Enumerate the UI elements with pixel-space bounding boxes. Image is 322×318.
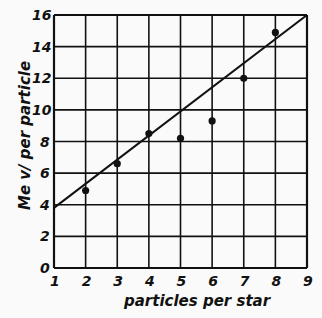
plot-area: 1234567890246810121416particles per star… <box>0 0 322 318</box>
data-point <box>209 117 216 124</box>
x-tick-label: 8 <box>271 273 281 289</box>
x-tick-label: 7 <box>240 273 250 289</box>
y-tick-label: 14 <box>32 39 51 55</box>
data-point <box>240 75 247 82</box>
y-tick-label: 2 <box>40 228 50 244</box>
data-point <box>145 130 152 137</box>
x-tick-label: 3 <box>113 273 123 289</box>
data-point <box>114 160 121 167</box>
x-tick-label: 6 <box>208 273 218 289</box>
x-tick-label: 4 <box>144 273 155 289</box>
x-tick-label: 5 <box>177 273 187 289</box>
y-tick-label: 6 <box>40 165 50 181</box>
y-tick-label: 8 <box>40 134 50 150</box>
data-point <box>177 135 184 142</box>
data-point <box>272 29 279 36</box>
y-tick-label: 16 <box>32 7 52 23</box>
x-axis-title: particles per star <box>123 292 272 310</box>
y-tick-label: 12 <box>32 70 51 86</box>
data-point <box>82 187 89 194</box>
x-tick-label: 2 <box>82 273 92 289</box>
y-tick-label: 0 <box>40 260 50 276</box>
y-tick-label: 10 <box>32 102 52 118</box>
y-axis-title: Me v/ per particle <box>16 61 34 210</box>
y-tick-label: 4 <box>39 197 50 213</box>
chart: 1234567890246810121416particles per star… <box>0 0 322 318</box>
x-tick-label: 9 <box>303 273 313 289</box>
x-tick-label: 1 <box>50 273 60 289</box>
